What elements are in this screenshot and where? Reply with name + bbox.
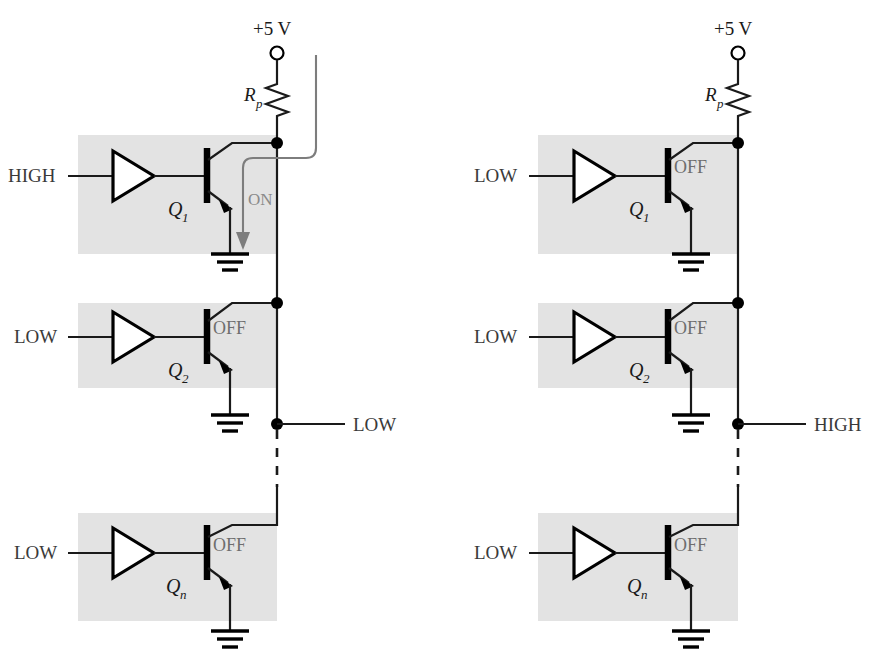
supply-label-left: +5 V [253,18,292,39]
supply-terminal-left [271,47,284,60]
transistor-sub-right-1: 1 [643,210,650,225]
state-label-right-3: OFF [674,535,707,555]
transistor-sub-right-3: n [641,587,648,602]
resistor-sub-left: p [255,96,263,111]
input-label-right-2: LOW [474,326,517,347]
input-label-left-2: LOW [14,326,57,347]
resistor-label-right: R [704,84,717,105]
input-label-right-3: LOW [474,542,517,563]
state-label-right-2: OFF [674,318,707,338]
panel-left: +5 V R p HIGH Q 1 [8,18,396,647]
transistor-sub-left-1: 1 [182,210,189,225]
supply-terminal-right [732,47,745,60]
circuit-figure: +5 V R p HIGH Q 1 [0,0,885,668]
transistor-label-right-2: Q [629,359,644,381]
transistor-label-left-2: Q [168,359,183,381]
bus-node-left-1 [271,137,283,149]
transistor-sub-left-3: n [180,587,187,602]
stage-band-right-3 [538,513,738,621]
resistor-sub-right: p [716,96,724,111]
state-label-left-2: OFF [213,318,246,338]
bus-node-left-2 [271,297,283,309]
transistor-sub-right-2: 2 [643,371,650,386]
pullup-resistor-left [266,80,288,120]
bus-node-right-1 [732,137,744,149]
bus-output-left: LOW [271,414,396,435]
supply-label-right: +5 V [714,18,753,39]
bus-output-label-left: LOW [353,414,396,435]
stage-band-right-1 [538,135,738,254]
pullup-resistor-right [727,80,749,120]
input-label-right-1: LOW [474,165,517,186]
bus-node-right-2 [732,297,744,309]
transistor-label-right-1: Q [629,198,644,220]
bus-output-right: HIGH [732,414,862,435]
resistor-label-left: R [243,84,256,105]
bus-output-label-right: HIGH [814,414,862,435]
circuit-diagram-svg: +5 V R p HIGH Q 1 [0,0,885,668]
input-label-left-1: HIGH [8,165,56,186]
state-label-left-3: OFF [213,535,246,555]
transistor-label-left-3: Q [166,575,181,597]
panel-right: +5 V R p LOW Q 1 OFF [474,18,862,647]
transistor-label-left-1: Q [168,198,183,220]
transistor-sub-left-2: 2 [182,371,189,386]
stage-band-left-3 [78,513,277,621]
state-label-right-1: OFF [674,157,707,177]
current-label-left: ON [248,190,273,209]
input-label-left-3: LOW [14,542,57,563]
transistor-label-right-3: Q [627,575,642,597]
